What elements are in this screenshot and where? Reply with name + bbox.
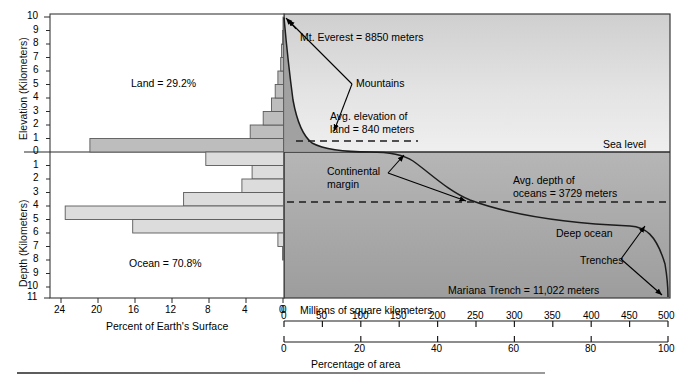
avg-ocean-depth-annotation-line1: Avg. depth of bbox=[513, 175, 575, 186]
left-x-ticks bbox=[61, 298, 283, 303]
x-tick-8: 8 bbox=[205, 305, 211, 315]
y-tick-1: 1 bbox=[33, 133, 39, 143]
y-tick-4: 4 bbox=[33, 92, 39, 102]
avg-ocean-depth-annotation-line2: oceans = 3729 meters bbox=[513, 188, 617, 199]
percent-tick-40: 40 bbox=[431, 344, 442, 354]
deep-ocean-annotation: Deep ocean bbox=[556, 228, 613, 239]
ocean-percent-label: Ocean = 70.8% bbox=[129, 258, 202, 269]
y-tick-d4: 4 bbox=[33, 200, 39, 210]
percent-tick-100: 100 bbox=[658, 344, 675, 354]
area-tick-500: 500 bbox=[658, 311, 675, 321]
y-tick-d3: 3 bbox=[33, 187, 39, 197]
y-tick-d9: 9 bbox=[33, 268, 39, 278]
y-tick-5: 5 bbox=[33, 79, 39, 89]
area-tick-300: 300 bbox=[506, 311, 523, 321]
percent-tick-0: 0 bbox=[281, 344, 287, 354]
x-tick-20: 20 bbox=[91, 305, 102, 315]
sea-level-label: Sea level bbox=[603, 139, 646, 150]
right-percent-axis-title: Percentage of area bbox=[311, 359, 400, 370]
area-tick-350: 350 bbox=[544, 311, 561, 321]
y-tick-10: 10 bbox=[27, 11, 38, 21]
percent-tick-60: 60 bbox=[508, 344, 519, 354]
bottom-divider-rule bbox=[17, 372, 545, 374]
elevation-axis-title: Elevation (Kilometers) bbox=[17, 37, 29, 140]
y-tick-d10: 10 bbox=[27, 281, 38, 291]
x-tick-4: 4 bbox=[242, 305, 248, 315]
area-tick-200: 200 bbox=[429, 311, 446, 321]
x-tick-24: 24 bbox=[54, 305, 65, 315]
percent-tick-20: 20 bbox=[354, 344, 365, 354]
y-tick-9: 9 bbox=[33, 25, 39, 35]
y-tick-7: 7 bbox=[33, 52, 39, 62]
y-tick-d6: 6 bbox=[33, 227, 39, 237]
hypsometric-figure: Elevation (Kilometers) Depth (Kilometers… bbox=[0, 0, 691, 388]
y-tick-d1: 1 bbox=[33, 160, 39, 170]
continental-margin-annotation-line2: margin bbox=[327, 179, 359, 190]
area-tick-50: 50 bbox=[316, 311, 327, 321]
percent-tick-80: 80 bbox=[585, 344, 596, 354]
depth-axis-title: Depth (Kilometers) bbox=[17, 199, 29, 287]
y-tick-3: 3 bbox=[33, 106, 39, 116]
y-tick-8: 8 bbox=[33, 38, 39, 48]
y-tick-2: 2 bbox=[33, 119, 39, 129]
y-tick-d7: 7 bbox=[33, 241, 39, 251]
y-tick-d8: 8 bbox=[33, 254, 39, 264]
area-tick-250: 250 bbox=[467, 311, 484, 321]
trenches-annotation: Trenches bbox=[580, 255, 623, 266]
area-tick-400: 400 bbox=[583, 311, 600, 321]
x-tick-16: 16 bbox=[128, 305, 139, 315]
left-y-ticks-lower bbox=[44, 166, 50, 299]
y-tick-d5: 5 bbox=[33, 214, 39, 224]
everest-annotation: Mt. Everest = 8850 meters bbox=[300, 32, 423, 43]
right-x-axis-area bbox=[284, 321, 668, 327]
avg-land-elevation-annotation-line1: Avg. elevation of bbox=[330, 111, 407, 122]
y-tick-6: 6 bbox=[33, 65, 39, 75]
y-tick-d11: 11 bbox=[27, 292, 37, 302]
x-tick-12: 12 bbox=[165, 305, 176, 315]
continental-margin-annotation-line1: Continental bbox=[327, 166, 380, 177]
avg-land-elevation-annotation-line2: land = 840 meters bbox=[330, 124, 414, 135]
left-x-axis-title: Percent of Earth's Surface bbox=[106, 321, 228, 332]
area-tick-150: 150 bbox=[390, 311, 407, 321]
mountains-annotation: Mountains bbox=[356, 78, 404, 89]
right-x-axis-percent bbox=[284, 336, 668, 342]
left-y-ticks-upper bbox=[44, 17, 50, 139]
land-percent-label: Land = 29.2% bbox=[131, 78, 196, 89]
area-tick-450: 450 bbox=[621, 311, 638, 321]
area-tick-0: 0 bbox=[281, 311, 287, 321]
y-tick-d2: 2 bbox=[33, 173, 39, 183]
area-tick-100: 100 bbox=[352, 311, 369, 321]
mariana-trench-annotation: Mariana Trench = 11,022 meters bbox=[448, 285, 599, 296]
y-tick-0: 0 bbox=[33, 146, 39, 156]
